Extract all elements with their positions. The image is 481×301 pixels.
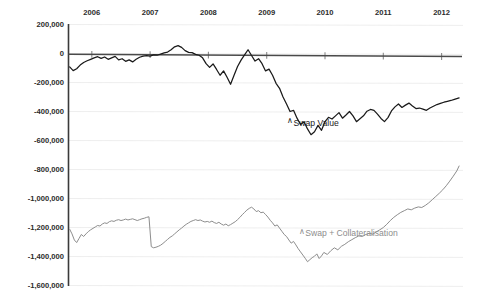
series-label-swap-value: ∧ Swap Value xyxy=(287,116,339,127)
x-tick-label: 2011 xyxy=(375,8,392,17)
swap-collateralisation-legend-text: Swap + Collateralisation xyxy=(305,228,398,238)
swap-collateralisation-legend-marker-icon: ∧ xyxy=(299,227,305,236)
x-tick-label: 2008 xyxy=(200,8,217,17)
swap-value-legend-marker-icon: ∧ xyxy=(287,116,293,125)
x-tick-label: 2012 xyxy=(433,8,450,17)
swap-value-legend-text: Swap Value xyxy=(294,118,339,128)
x-tick-label: 2009 xyxy=(258,8,275,17)
chart-svg: 200,0000-200,000-400,000-600,000-800,000… xyxy=(0,0,481,301)
y-tick-label: -1,200,000 xyxy=(28,223,64,232)
y-tick-label: 0 xyxy=(60,49,64,58)
chart-container: 200,0000-200,000-400,000-600,000-800,000… xyxy=(0,0,481,301)
y-tick-label: -800,000 xyxy=(34,165,64,174)
x-tick-label: 2010 xyxy=(317,8,334,17)
chart-background xyxy=(0,0,481,301)
y-tick-label: -1,000,000 xyxy=(28,194,64,203)
y-tick-label: -1,400,000 xyxy=(28,252,64,261)
y-tick-label: -200,000 xyxy=(34,78,64,87)
x-tick-label: 2007 xyxy=(142,8,159,17)
series-label-swap-collateralisation: ∧ Swap + Collateralisation xyxy=(299,227,398,238)
y-tick-label: -1,600,000 xyxy=(28,281,64,290)
y-tick-label: -400,000 xyxy=(34,107,64,116)
x-tick-label: 2006 xyxy=(83,8,100,17)
y-tick-label: -600,000 xyxy=(34,136,64,145)
y-tick-label: 200,000 xyxy=(37,20,64,29)
